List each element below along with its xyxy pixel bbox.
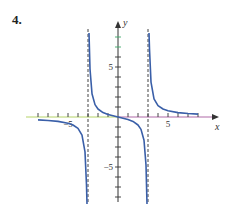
rational-function-graph: −555−5xy	[0, 0, 239, 211]
y-axis-label: y	[122, 17, 128, 28]
x-axis-label: x	[214, 121, 220, 132]
y-tick-label: 5	[109, 62, 114, 72]
y-axis-arrow-icon	[115, 21, 121, 28]
axes	[26, 21, 219, 202]
curve-branch-right	[149, 33, 198, 114]
y-tick-label: −5	[103, 162, 113, 172]
x-tick-label: 5	[166, 119, 171, 129]
curve-branch-left	[38, 120, 87, 204]
x-axis-arrow-icon	[212, 114, 219, 120]
tick-labels: −555−5xy	[63, 17, 220, 172]
